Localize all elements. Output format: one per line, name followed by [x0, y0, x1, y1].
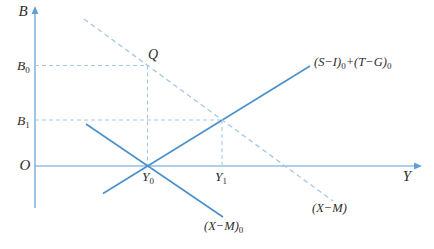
y-axis-label: B: [18, 3, 27, 19]
label-b1: B1: [17, 113, 30, 130]
xm-label: (X−M): [312, 201, 347, 215]
label-q: Q: [148, 47, 158, 62]
si-tg-label: (S−I)0+(T−G)0: [314, 55, 392, 71]
horizontal-axis-arrow-icon: [414, 163, 422, 170]
vertical-axis-arrow-icon: [32, 6, 39, 14]
x-axis-label: Y: [403, 168, 413, 184]
label-y0: Y0: [142, 169, 155, 186]
label-b0: B0: [17, 58, 30, 75]
xm-dashed-line: [84, 19, 333, 201]
xm0-label: (X−M)0: [204, 219, 244, 235]
figure-canvas: BYO(S−I)0+(T−G)0(X−M)0(X−M)B0B1Y0Y1Q: [0, 0, 434, 249]
xm0-line: [86, 124, 223, 217]
label-y1: Y1: [215, 169, 227, 186]
origin-label: O: [20, 157, 31, 173]
si-tg-line: [103, 66, 310, 194]
bp-economics-diagram: BYO(S−I)0+(T−G)0(X−M)0(X−M)B0B1Y0Y1Q: [0, 0, 434, 249]
